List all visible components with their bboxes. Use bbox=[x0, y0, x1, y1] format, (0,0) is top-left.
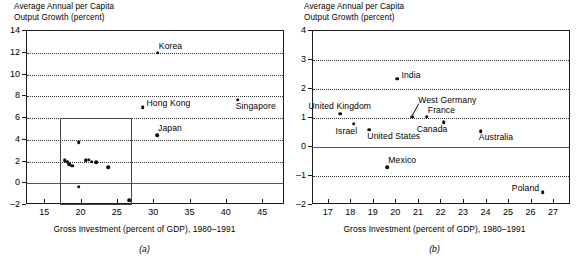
x-tick-label: 40 bbox=[221, 207, 231, 217]
x-tick-label: 35 bbox=[185, 207, 195, 217]
data-point-label: United States bbox=[367, 131, 420, 141]
data-point-hong-kong bbox=[141, 105, 145, 109]
x-tick-mark bbox=[190, 199, 191, 204]
gridline bbox=[313, 118, 569, 119]
data-point-label: Mexico bbox=[388, 155, 416, 165]
y-tick-label: 12 bbox=[0, 47, 20, 57]
data-point-label: Hong Kong bbox=[147, 98, 191, 108]
panel-a-x-axis-title: Gross Investment (percent of GDP), 1980–… bbox=[0, 224, 289, 234]
y-tick-mark bbox=[22, 117, 26, 118]
x-tick-label: 19 bbox=[368, 207, 378, 217]
data-point-united-kingdom bbox=[338, 112, 342, 116]
panel-a-letter: (a) bbox=[0, 244, 289, 254]
gridline bbox=[27, 75, 283, 76]
x-tick-label: 17 bbox=[323, 207, 333, 217]
data-point-label: Poland bbox=[512, 183, 539, 193]
y-tick-mark bbox=[308, 146, 312, 147]
y-tick-label: 4 bbox=[0, 134, 20, 144]
y-tick-label: 4 bbox=[282, 25, 306, 35]
x-tick-mark bbox=[486, 199, 487, 204]
y-tick-label: 14 bbox=[0, 25, 20, 35]
y-tick-mark bbox=[308, 204, 312, 205]
y-tick-mark bbox=[308, 88, 312, 89]
x-tick-label: 23 bbox=[458, 207, 468, 217]
x-tick-label: 45 bbox=[257, 207, 267, 217]
data-point-label: Singapore bbox=[236, 101, 276, 111]
data-point bbox=[107, 166, 111, 170]
x-tick-mark bbox=[81, 199, 82, 204]
y-tick-mark bbox=[22, 204, 26, 205]
data-point-label: Israel bbox=[336, 126, 358, 136]
y-tick-label: 0 bbox=[0, 177, 20, 187]
x-tick-mark bbox=[463, 199, 464, 204]
x-tick-label: 27 bbox=[548, 207, 558, 217]
y-tick-mark bbox=[22, 30, 26, 31]
x-tick-mark bbox=[395, 199, 396, 204]
data-point bbox=[94, 160, 98, 164]
y-tick-label: 10 bbox=[0, 69, 20, 79]
y-tick-label: 2 bbox=[282, 83, 306, 93]
data-point-label: India bbox=[401, 70, 420, 80]
data-point-india bbox=[396, 77, 400, 81]
y-tick-label: 6 bbox=[0, 112, 20, 122]
gridline bbox=[313, 176, 569, 177]
y-tick-mark bbox=[22, 74, 26, 75]
x-tick-mark bbox=[418, 199, 419, 204]
panel-a-plot-area: KoreaSingaporeHong KongJapan bbox=[26, 30, 284, 204]
x-tick-label: 26 bbox=[526, 207, 536, 217]
data-point-label: West Germany bbox=[418, 95, 476, 105]
panel-b-plot-area: IndiaUnited KingdomWest GermanyFranceIsr… bbox=[312, 30, 570, 204]
y-tick-mark bbox=[22, 95, 26, 96]
y-tick-label: –1 bbox=[282, 170, 306, 180]
x-tick-label: 15 bbox=[39, 207, 49, 217]
data-point-poland bbox=[541, 190, 545, 194]
x-tick-mark bbox=[117, 199, 118, 204]
panel-a-y-axis-title: Average Annual per Capita Output Growth … bbox=[14, 2, 214, 23]
panel-b-letter: (b) bbox=[290, 244, 579, 254]
page-bleed-text bbox=[0, 262, 579, 266]
x-tick-mark bbox=[373, 199, 374, 204]
x-tick-mark bbox=[440, 199, 441, 204]
x-tick-label: 24 bbox=[480, 207, 490, 217]
gridline bbox=[27, 96, 283, 97]
y-tick-mark bbox=[308, 117, 312, 118]
data-point bbox=[128, 198, 132, 202]
x-tick-mark bbox=[262, 199, 263, 204]
data-point bbox=[70, 164, 74, 168]
gridline bbox=[27, 53, 283, 54]
x-tick-mark bbox=[328, 199, 329, 204]
x-tick-label: 30 bbox=[148, 207, 158, 217]
data-point-label: France bbox=[428, 105, 455, 115]
data-point-mexico bbox=[386, 166, 390, 170]
chart-panel-b: Average Annual per Capita Output Growth … bbox=[290, 0, 579, 266]
data-point bbox=[77, 185, 81, 189]
x-tick-mark bbox=[153, 199, 154, 204]
gridline bbox=[313, 89, 569, 90]
x-tick-mark bbox=[226, 199, 227, 204]
gridline bbox=[313, 60, 569, 61]
x-tick-mark bbox=[553, 199, 554, 204]
y-tick-mark bbox=[22, 182, 26, 183]
y-tick-mark bbox=[22, 161, 26, 162]
x-tick-label: 25 bbox=[112, 207, 122, 217]
data-point-japan bbox=[155, 134, 159, 138]
data-point bbox=[77, 140, 81, 144]
data-point-label: United Kingdom bbox=[309, 101, 372, 111]
data-point-label: Australia bbox=[479, 132, 513, 142]
x-tick-mark bbox=[508, 199, 509, 204]
y-tick-mark bbox=[22, 52, 26, 53]
y-tick-label: 2 bbox=[0, 156, 20, 166]
zero-line bbox=[313, 147, 569, 148]
y-tick-label: 1 bbox=[282, 112, 306, 122]
x-tick-label: 20 bbox=[390, 207, 400, 217]
label-leader-line bbox=[412, 104, 419, 115]
x-tick-label: 18 bbox=[345, 207, 355, 217]
data-point-label: Korea bbox=[159, 41, 182, 51]
y-tick-mark bbox=[308, 30, 312, 31]
data-point-label: Japan bbox=[158, 123, 182, 133]
x-tick-label: 22 bbox=[435, 207, 445, 217]
panel-b-y-axis-title: Average Annual per Capita Output Growth … bbox=[304, 2, 504, 23]
x-tick-mark bbox=[531, 199, 532, 204]
panel-b-x-axis-title: Gross Investment (percent of GDP), 1980–… bbox=[290, 224, 579, 234]
y-tick-mark bbox=[308, 59, 312, 60]
